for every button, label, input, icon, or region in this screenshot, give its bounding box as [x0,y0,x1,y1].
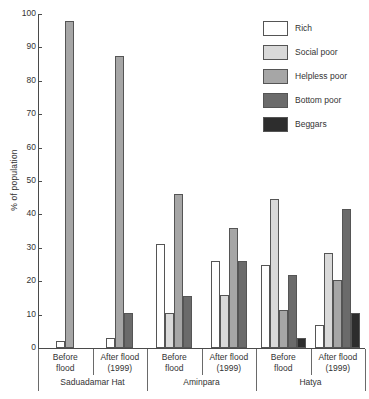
x-axis-category-line1: After flood [100,352,139,362]
y-axis-tick-label: 10 [6,309,36,319]
bar [270,199,279,348]
y-axis-tick-label: 40 [6,208,36,218]
x-axis-divider [93,349,94,375]
bar [183,296,192,348]
x-axis-category-line2: (1999) [311,363,366,374]
bar-group-bars [202,14,257,348]
x-axis-category: After flood(1999) [93,352,148,373]
bar [324,253,333,348]
x-axis-divider [365,349,366,391]
bar [56,341,65,348]
bar-group [147,14,202,348]
x-axis-category: Beforeflood [38,352,93,373]
bar [288,275,297,348]
bar [211,261,220,348]
legend-swatch [263,21,288,36]
legend-swatch [263,93,288,108]
x-axis-location-label: Hatya [256,377,365,387]
x-axis-location-label: Saduadamar Hat [38,377,147,387]
bar-group-bars [93,14,148,348]
x-axis-category-line2: (1999) [93,363,148,374]
bar-group [93,14,148,348]
x-axis-category-line2: flood [147,363,202,374]
x-axis-divider [202,349,203,375]
bar [333,280,342,348]
legend-label: Bottom poor [295,95,341,105]
bar [174,194,183,348]
legend-label: Helpless poor [295,71,347,81]
x-axis-location-label: Aminpara [147,377,256,387]
legend-item: Social poor [263,40,369,64]
legend-item: Helpless poor [263,64,369,88]
legend-label: Social poor [295,47,338,57]
bar [297,338,306,348]
chart-legend: RichSocial poorHelpless poorBottom poorB… [263,16,369,136]
bar [65,21,74,348]
legend-swatch [263,45,288,60]
x-axis-category-line2: (1999) [202,363,257,374]
x-axis-category-line1: After flood [209,352,248,362]
legend-item: Beggars [263,112,369,136]
bar [261,265,270,349]
bar-group [202,14,257,348]
bar [106,338,115,348]
bar [220,295,229,348]
bar [156,244,165,348]
legend-label: Beggars [295,119,327,129]
legend-item: Bottom poor [263,88,369,112]
bar-group-bars [147,14,202,348]
bar [351,313,360,348]
x-axis-category-line1: Before [53,352,78,362]
bar-group [38,14,93,348]
x-axis-category-line1: After flood [318,352,357,362]
x-axis-category-line2: flood [38,363,93,374]
y-axis-tick-label: 0 [6,342,36,352]
x-axis-category-line1: Before [271,352,296,362]
y-axis-tick-label: 100 [6,8,36,18]
bar [238,261,247,348]
y-axis-tick-label: 80 [6,75,36,85]
x-axis-category-line1: Before [162,352,187,362]
bar [115,56,124,348]
y-axis-tick-label: 90 [6,41,36,51]
x-axis-category: Beforeflood [147,352,202,373]
x-axis-category: Beforeflood [256,352,311,373]
legend-label: Rich [295,23,312,33]
bar-group-bars [38,14,93,348]
y-axis-tick-label: 50 [6,175,36,185]
y-axis-tick-label: 60 [6,142,36,152]
bar [342,209,351,348]
legend-item: Rich [263,16,369,40]
legend-swatch [263,117,288,132]
x-axis-divider [311,349,312,375]
legend-swatch [263,69,288,84]
x-axis-category: After flood(1999) [202,352,257,373]
y-axis-tick-label: 20 [6,275,36,285]
bar [229,228,238,348]
bar [315,325,324,348]
bar [165,313,174,348]
chart-figure: % of population 0102030405060708090100 B… [0,0,369,399]
bar [124,313,133,348]
x-axis-category-line2: flood [256,363,311,374]
x-axis-category: After flood(1999) [311,352,366,373]
y-axis-tick-label: 70 [6,108,36,118]
bar [279,310,288,348]
y-axis-tick-label: 30 [6,242,36,252]
